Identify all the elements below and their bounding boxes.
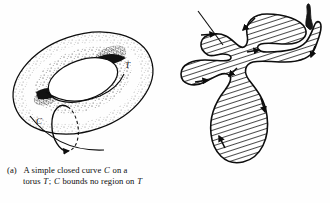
interior-region bbox=[181, 14, 321, 163]
panel-a-torus: T C (a) A simple closed curve C on a tor… bbox=[0, 0, 175, 203]
boundary-spike bbox=[306, 4, 313, 30]
caption-a-line-1: A simple closed curve C on a bbox=[23, 165, 127, 175]
oriented-region-drawing bbox=[175, 0, 330, 175]
caption-a-label: (a) bbox=[7, 165, 17, 175]
torus-label-C: C bbox=[36, 116, 42, 126]
torus-label-T: T bbox=[125, 60, 130, 70]
caption-panel-a: (a) A simple closed curve C on a torus T… bbox=[7, 165, 143, 188]
caption-a-line-2: torus T; C bounds no region on T bbox=[7, 176, 143, 187]
torus-drawing bbox=[0, 0, 175, 165]
panel-b-oriented-curve: Interior of C C (b) C is positively orie… bbox=[175, 0, 330, 203]
figure-root: T C (a) A simple closed curve C on a tor… bbox=[0, 0, 330, 203]
